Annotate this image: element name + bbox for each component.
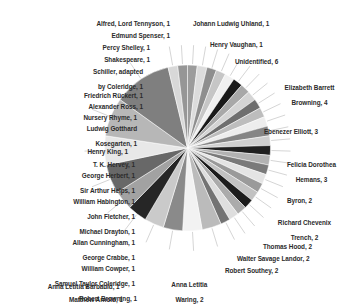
leader-line (212, 228, 218, 246)
label-text-line1: Elizabeth Barrett (284, 84, 334, 91)
label-text: Henry Vaughan, 1 (210, 41, 263, 48)
label-text: William Habington, 1 (73, 198, 135, 205)
label-text-line1: Ludwig Gotthard (87, 125, 137, 132)
slice-label-ebenezer-elliott: Ebenezer Elliott, 3 (257, 120, 356, 143)
label-text: Allan Cunningham, 1 (72, 239, 135, 246)
slice-label-felicia-dorothea-hemans: Felicia Dorothea Hemans, 3 (262, 153, 354, 191)
label-text: Matthew Arnold, 1 (69, 296, 123, 303)
label-text: Unidentified, 6 (235, 58, 278, 65)
label-text: George Herbert, 1 (82, 172, 135, 179)
slice-label-anna-letitia-waring: Anna Letitia Waring, 2 (152, 273, 220, 307)
slice-label-richard-chevenix-trench: Richard Chevenix Trench, 2 (251, 211, 351, 249)
slice-label-elizabeth-barrett-browning: Elizabeth Barrett Browning, 4 (258, 76, 354, 114)
label-text-line2: Waring, 2 (175, 296, 203, 303)
label-text-line2: Browning, 4 (291, 99, 327, 106)
leader-line (146, 225, 154, 242)
label-text-line1: Anna Letitia (171, 281, 207, 288)
label-text: Johann Ludwig Uhland, 1 (193, 20, 269, 27)
leader-line (193, 45, 194, 64)
leader-line (272, 151, 291, 152)
slice-label-byron: Byron, 2 (280, 189, 350, 212)
label-text: Byron, 2 (287, 197, 312, 204)
label-text-line1: Richard Chevenix (278, 219, 331, 226)
leader-line (226, 223, 235, 240)
leader-line (181, 45, 182, 64)
leader-line (169, 231, 172, 250)
label-text-line1: Schiller, adapted (93, 68, 143, 75)
leader-line (193, 232, 194, 251)
leader-line (256, 197, 272, 208)
label-text-line2: Trench, 2 (291, 234, 319, 241)
label-text-line1: Felicia Dorothea (287, 161, 336, 168)
label-text: John Fletcher, 1 (87, 213, 135, 220)
pie-chart-figure: Alfred, Lord Tennyson, 1 Edmund Spenser,… (0, 0, 356, 307)
label-text: William Cowper, 1 (82, 265, 135, 272)
slice-label-henry-vaughan: Henry Vaughan, 1 (203, 33, 323, 56)
slice-label-johann-ludwig-uhland: Johann Ludwig Uhland, 1 (186, 12, 336, 35)
leader-line (169, 47, 172, 66)
leader-line (234, 218, 245, 234)
label-text: Ebenezer Elliott, 3 (264, 128, 318, 135)
label-text-line2: Hemans, 3 (296, 176, 328, 183)
